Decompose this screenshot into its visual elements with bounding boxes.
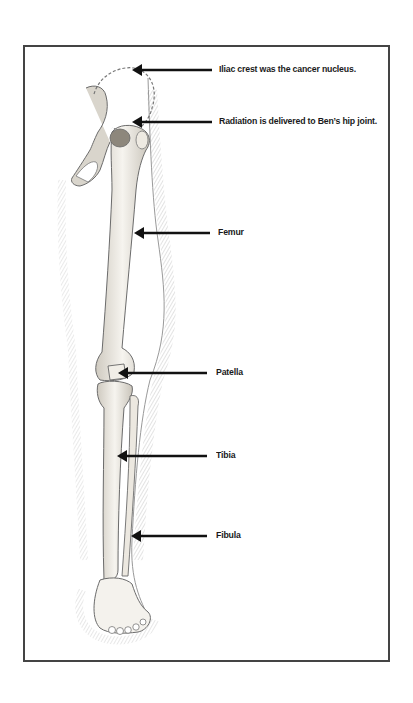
label-tibia: Tibia [216, 449, 235, 460]
label-iliac-crest: Iliac crest was the cancer nucleus. [219, 63, 356, 74]
arrow-femur [134, 227, 210, 239]
label-fibula: Fibula [216, 529, 241, 540]
label-femur: Femur [218, 226, 244, 237]
femur-bone [96, 125, 150, 380]
arrow-radiation-hip [132, 116, 212, 128]
label-radiation-hip: Radiation is delivered to Ben’s hip join… [219, 115, 377, 126]
leg-bone-illustration [0, 0, 413, 703]
label-patella: Patella [216, 366, 243, 377]
arrow-iliac-crest [132, 64, 212, 76]
foot-bones [94, 578, 150, 635]
